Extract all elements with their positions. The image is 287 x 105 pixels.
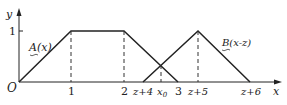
- origin-label: O: [7, 81, 17, 95]
- tilde-A-icon: [30, 54, 38, 56]
- x-tick-z6: z+6: [240, 86, 262, 97]
- x-axis-label: x: [273, 85, 280, 98]
- x-tick-1: 1: [68, 85, 75, 98]
- y-axis-arrow-icon: [17, 8, 22, 16]
- curve-B-label: B(x-z): [221, 37, 251, 48]
- x-tick-x0: x0: [157, 86, 168, 99]
- y-axis-label: y: [5, 8, 13, 21]
- x-tick-3: 3: [175, 85, 182, 98]
- curve-A: [19, 31, 178, 82]
- x-tick-z5: z+5: [187, 86, 208, 97]
- x-axis-arrow-icon: [274, 80, 282, 85]
- x-tick-z4: z+4: [132, 86, 153, 97]
- x-tick-2: 2: [121, 85, 128, 98]
- membership-diagram: y 1 O 1 2 z+4 x0 3 z+5 z+6 x A(x) B(x-z): [0, 0, 287, 105]
- tilde-B-icon: [222, 49, 230, 51]
- curve-A-label: A(x): [28, 41, 52, 54]
- y-tick-label: 1: [9, 25, 16, 38]
